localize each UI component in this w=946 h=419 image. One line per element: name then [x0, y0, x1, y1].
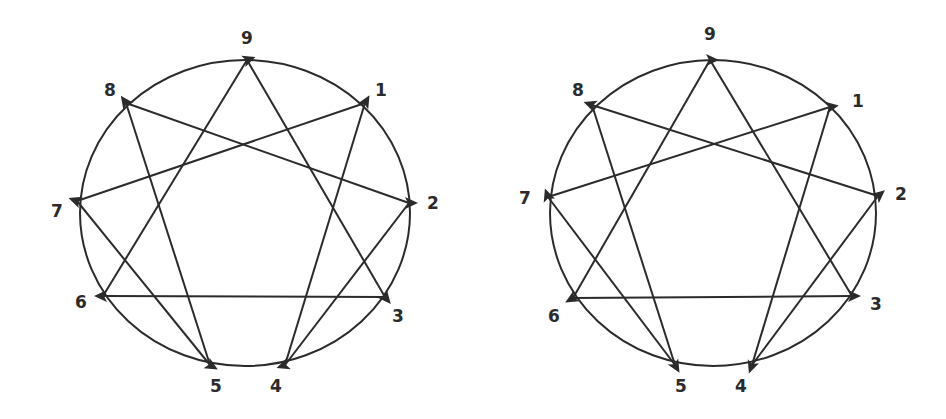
enneagram-right: 123456789 — [519, 24, 907, 396]
edge-1-4 — [285, 103, 365, 365]
point-label-8: 8 — [104, 80, 116, 100]
point-label-9: 9 — [704, 24, 716, 44]
enneagram-diagrams: 123456789123456789 — [0, 0, 946, 419]
edge-7-1 — [548, 107, 830, 197]
point-label-4: 4 — [270, 376, 282, 396]
edge-7-1 — [77, 103, 365, 201]
point-label-2: 2 — [895, 184, 907, 204]
point-label-4: 4 — [735, 376, 747, 396]
arrowhead-icon — [581, 96, 597, 112]
point-label-5: 5 — [210, 376, 222, 396]
arrowhead-icon — [116, 92, 133, 110]
edge-2-8 — [592, 105, 878, 196]
point-label-1: 1 — [375, 80, 387, 100]
arrowhead-icon — [358, 92, 375, 109]
enneagram-left: 123456789 — [51, 28, 439, 396]
arrowhead-icon — [562, 291, 579, 308]
edge-5-7 — [77, 201, 210, 365]
point-label-6: 6 — [75, 292, 87, 312]
enneagram-circle — [80, 60, 410, 366]
edge-3-6 — [573, 296, 852, 298]
point-label-1: 1 — [852, 91, 864, 111]
point-label-3: 3 — [870, 294, 882, 314]
edge-3-6 — [103, 296, 385, 297]
point-label-7: 7 — [51, 201, 63, 221]
point-label-9: 9 — [241, 28, 253, 48]
enneagram-circle — [550, 60, 876, 366]
point-label-8: 8 — [572, 80, 584, 100]
point-label-7: 7 — [519, 188, 531, 208]
point-label-2: 2 — [427, 193, 439, 213]
edge-1-4 — [752, 107, 830, 365]
arrowhead-icon — [825, 100, 840, 114]
point-label-5: 5 — [675, 376, 687, 396]
point-label-6: 6 — [548, 306, 560, 326]
point-label-3: 3 — [392, 306, 404, 326]
